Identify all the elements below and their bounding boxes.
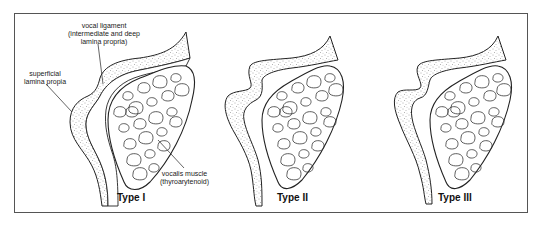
label-superficial-line1: superficial xyxy=(24,70,66,78)
label-vocal-ligament: vocal ligament (intermediate and deep la… xyxy=(68,22,140,46)
panel-title-type-2: Type II xyxy=(277,192,308,203)
label-superficial: superficial lamina propia xyxy=(24,70,66,86)
label-superficial-line2: lamina propia xyxy=(24,78,66,86)
label-vocal-ligament-line3: lamina propria) xyxy=(68,38,140,46)
panel-title-type-1: Type I xyxy=(117,192,145,203)
label-vocalis-line1: vocalis muscle xyxy=(160,170,209,178)
leader-superficial xyxy=(46,84,72,112)
panel-type-3 xyxy=(394,36,511,204)
panel-type-2 xyxy=(225,36,343,206)
label-vocalis: vocalis muscle (thyroarytenoid) xyxy=(160,170,209,186)
label-vocalis-line2: (thyroarytenoid) xyxy=(160,178,209,186)
label-vocal-ligament-line2: (intermediate and deep xyxy=(68,30,140,38)
label-vocal-ligament-line1: vocal ligament xyxy=(68,22,140,30)
panel-title-type-3: Type III xyxy=(438,192,472,203)
